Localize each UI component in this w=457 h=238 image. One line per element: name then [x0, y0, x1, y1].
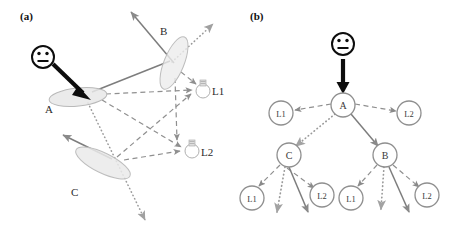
- figure-container: (a): [0, 0, 457, 238]
- tree-edges-from-b: [358, 165, 419, 212]
- panel-b: (b): [229, 0, 457, 238]
- light-bulb-l2: [185, 140, 199, 158]
- tree-viewer-smiley-face-icon: [332, 33, 354, 55]
- surface-patches-group: [48, 33, 194, 185]
- light-label-l2: L2: [201, 146, 213, 158]
- tree-node-l2-c-label: L2: [317, 191, 326, 201]
- ray-a-to-b: [92, 61, 170, 92]
- tree-smiley-left-eye-icon: [337, 39, 340, 42]
- tree-node-l2-a-label: L2: [404, 109, 413, 119]
- tree-edges-from-c: [259, 165, 314, 212]
- tree-edge-a-b: [351, 114, 378, 146]
- specular-rays-group: [63, 12, 174, 159]
- tree-node-l2-a[interactable]: L2: [397, 101, 421, 125]
- smiley-right-eye-icon: [45, 52, 48, 55]
- panel-a-graphics: A B C L1 L2: [0, 0, 229, 238]
- tree-node-l1-b[interactable]: L1: [339, 186, 363, 210]
- tree-node-l2-b[interactable]: L2: [415, 183, 439, 207]
- tree-node-l1-a-label: L1: [276, 109, 285, 119]
- smiley-left-eye-icon: [37, 52, 40, 55]
- tree-node-l1-b-label: L1: [346, 194, 355, 204]
- surface-patch-b: [154, 33, 194, 92]
- l1-bulb-base-icon: [200, 80, 206, 86]
- tree-nodes-group: A L1 L2 C B: [240, 93, 439, 210]
- tree-node-l1-c-label: L1: [247, 194, 256, 204]
- edge-a-to-l2: [102, 100, 181, 147]
- tree-node-l1-a[interactable]: L1: [269, 101, 293, 125]
- tree-edge-c-l1: [259, 165, 280, 186]
- surface-label-b: B: [160, 25, 167, 37]
- light-label-l1: L1: [212, 85, 224, 97]
- surface-label-a: A: [45, 103, 53, 115]
- illumination-edges-group: [102, 72, 196, 160]
- tree-node-l1-c[interactable]: L1: [240, 186, 264, 210]
- tree-edge-b-open-solid: [389, 167, 409, 212]
- dotted-paths-group: [88, 24, 213, 220]
- tree-node-a-label: A: [339, 100, 347, 111]
- panel-b-graphics: A L1 L2 C B: [229, 0, 457, 238]
- tree-edge-b-open-dotted: [381, 167, 384, 209]
- tree-edge-c-open-dotted: [277, 167, 285, 212]
- light-bulb-l1: [196, 80, 210, 98]
- edge-b-to-l1: [181, 72, 196, 84]
- edge-b-to-l2: [175, 78, 177, 140]
- tree-node-l2-c[interactable]: L2: [310, 183, 334, 207]
- tree-node-b[interactable]: B: [373, 143, 397, 167]
- tree-node-b-label: B: [382, 150, 389, 161]
- tree-node-c[interactable]: C: [277, 143, 301, 167]
- surface-label-c: C: [71, 186, 78, 198]
- tree-edge-b-l1: [358, 165, 377, 186]
- tree-edge-c-open-solid: [289, 167, 308, 212]
- surface-patch-c: [72, 141, 135, 185]
- tree-smiley-right-eye-icon: [345, 39, 348, 42]
- viewer-smiley-face-icon: [32, 46, 54, 68]
- tree-edge-a-l2: [355, 104, 396, 111]
- edge-a-to-l1: [106, 90, 192, 94]
- l2-bulb-base-icon: [189, 140, 195, 146]
- tree-edge-a-l1: [295, 104, 331, 110]
- edge-c-to-l1: [117, 94, 191, 157]
- tree-node-c-label: C: [286, 150, 293, 161]
- tree-node-a[interactable]: A: [331, 93, 355, 117]
- root-down-arrow-icon: [337, 59, 350, 94]
- tree-node-l2-b-label: L2: [422, 191, 431, 201]
- panel-a: (a): [0, 0, 229, 238]
- tree-edge-a-c: [296, 114, 335, 146]
- edge-c-to-l2: [124, 151, 180, 160]
